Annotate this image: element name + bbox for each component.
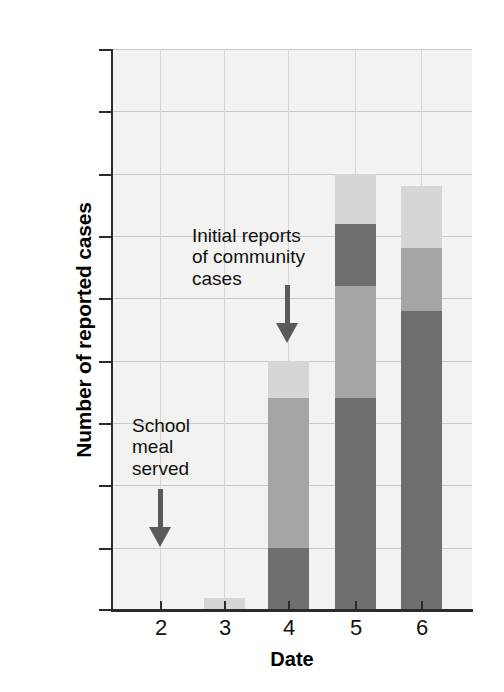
gridline-40 [112,111,472,112]
x-axis-line [111,609,473,612]
x-tick-label-5: 5 [336,617,376,639]
y-axis-line [111,49,113,611]
x-axis-title: Date [112,648,472,671]
x-tick-label-2: 2 [141,617,181,639]
bar-segment-6-medium-1 [401,248,442,310]
y-tick-mark-30 [99,236,113,238]
annotation-initial-reports-arrow-shaft [285,285,290,325]
y-tick-mark-0 [99,609,113,611]
annotation-initial-reports-text: Initial reports of community cases [192,225,305,289]
x-tick-mark-3 [224,601,226,612]
x-tick-label-6: 6 [402,617,442,639]
bar-segment-4-light-2 [268,361,309,398]
annotation-school-meal-text: School meal served [132,415,190,479]
x-tick-label-4: 4 [269,617,309,639]
y-tick-mark-10 [99,485,113,487]
gridline-45 [112,49,472,50]
x-tick-mark-4 [288,601,290,612]
annotation-school-meal-arrow-head [149,527,171,547]
gridline-35 [112,174,472,175]
y-tick-mark-25 [99,298,113,300]
y-tick-mark-15 [99,423,113,425]
bar-segment-6-dark-0 [401,311,442,610]
y-tick-mark-45 [99,49,113,51]
annotation-school-meal-arrow-shaft [158,489,163,529]
bar-segment-5-dark-0 [335,398,376,610]
y-axis-title: Number of reported cases [72,150,96,510]
x-tick-mark-2 [160,601,162,612]
bar-segment-5-light-3 [335,174,376,224]
vgridline-3 [224,49,225,610]
x-tick-mark-6 [421,601,423,612]
x-tick-mark-5 [355,601,357,612]
chart-figure: Number of reported cases School meal ser… [0,0,504,692]
y-tick-mark-20 [99,361,113,363]
annotation-school-meal: School meal served [132,415,190,479]
plot-area: School meal served Initial reports of co… [112,49,472,610]
bar-segment-5-medium-1 [335,286,376,398]
annotation-initial-reports: Initial reports of community cases [192,225,305,289]
bar-segment-6-light-2 [401,186,442,248]
annotation-initial-reports-arrow-head [276,323,298,343]
bar-segment-5-dark-2 [335,224,376,286]
x-tick-label-3: 3 [205,617,245,639]
y-tick-mark-40 [99,111,113,113]
bar-segment-4-medium-1 [268,398,309,548]
y-tick-mark-5 [99,548,113,550]
y-tick-mark-35 [99,174,113,176]
